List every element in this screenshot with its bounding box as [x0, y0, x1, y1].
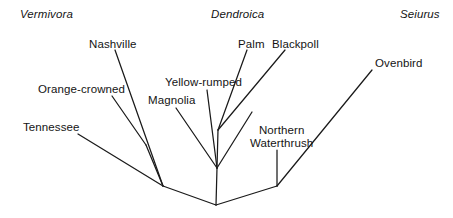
species-label-yellow-rumped: Yellow-rumped	[165, 76, 242, 89]
genus-label-seiurus: Seiurus	[400, 8, 440, 21]
branch-palm-blackpoll-to-blackpoll	[218, 50, 285, 130]
branch-root-to-seiurus	[216, 186, 277, 205]
branch-root-to-vermivora	[163, 186, 216, 205]
phylogenetic-tree-figure: VermivoraDendroicaSeiurusNashvillePalmBl…	[0, 0, 453, 218]
branch-palm-blackpoll-to-palm	[218, 50, 247, 130]
species-label-northern-waterthrush: NorthernWaterthrush	[250, 124, 313, 149]
species-label-nashville: Nashville	[89, 38, 137, 51]
species-label-magnolia: Magnolia	[148, 94, 195, 107]
genus-label-dendroica: Dendroica	[211, 8, 264, 21]
species-label-blackpoll: Blackpoll	[272, 38, 319, 51]
branch-vermivora-to-tennessee	[78, 134, 163, 186]
species-label-orange-crowned: Orange-crowned	[38, 83, 125, 96]
species-label-ovenbird: Ovenbird	[375, 57, 422, 70]
species-label-tennessee: Tennessee	[23, 121, 80, 134]
branch-vermivora-to-nashville	[115, 50, 163, 186]
species-label-line-2: Waterthrush	[250, 137, 313, 150]
genus-label-vermivora: Vermivora	[20, 8, 73, 21]
species-label-palm: Palm	[238, 38, 265, 51]
branch-dendroica-to-palm-blackpoll	[217, 130, 218, 168]
tree-branches	[0, 0, 453, 218]
branch-dendroica-to-northern-waterthrush-side	[217, 112, 252, 168]
branch-orange-crowned-tip	[112, 96, 146, 145]
branch-root-to-dendroica	[216, 168, 217, 205]
species-label-line-1: Northern	[250, 124, 313, 137]
